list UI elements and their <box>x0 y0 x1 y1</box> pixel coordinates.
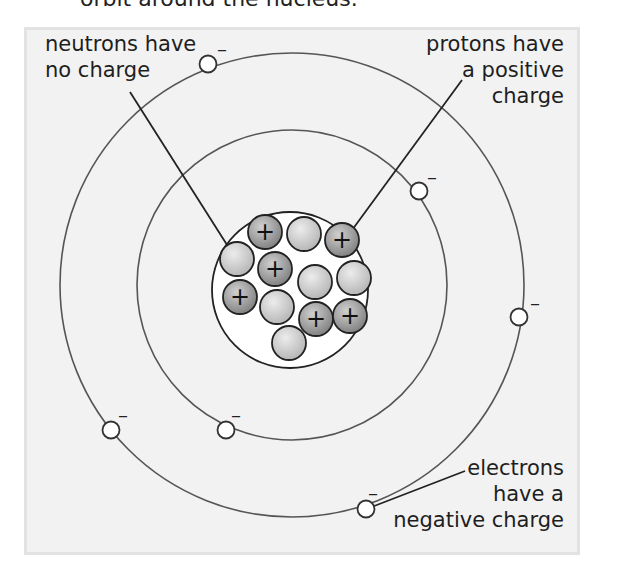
svg-text:+: + <box>230 283 250 311</box>
electrons-label: electrons have a negative charge <box>393 455 564 533</box>
svg-text:+: + <box>265 255 285 283</box>
svg-text:–: – <box>217 37 227 61</box>
protons-label: protons have a positive charge <box>426 31 564 109</box>
svg-text:+: + <box>340 302 360 330</box>
neutron <box>220 242 254 276</box>
svg-text:–: – <box>118 403 128 427</box>
proton: + <box>325 223 359 257</box>
proton: + <box>248 215 282 249</box>
svg-text:–: – <box>231 403 241 427</box>
electron: – <box>218 403 242 439</box>
electrons-label-line: negative charge <box>393 507 564 533</box>
electron: – <box>200 37 228 73</box>
neutron <box>287 217 321 251</box>
neutrons-label-line: no charge <box>45 57 196 83</box>
electron: – <box>103 403 129 439</box>
nucleus: + + + + + + <box>212 212 371 368</box>
proton: + <box>223 280 257 314</box>
neutrons-label: neutrons have no charge <box>45 31 196 83</box>
electron: – <box>411 165 438 200</box>
svg-text:–: – <box>530 291 540 315</box>
electrons-label-line: have a <box>393 481 564 507</box>
electrons-label-line: electrons <box>393 455 564 481</box>
neutrons-label-line: neutrons have <box>45 31 196 57</box>
proton: + <box>333 299 367 333</box>
protons-label-line: charge <box>426 83 564 109</box>
neutron <box>260 290 294 324</box>
svg-text:–: – <box>368 481 378 505</box>
neutron <box>298 265 332 299</box>
proton: + <box>258 252 292 286</box>
svg-text:+: + <box>255 218 275 246</box>
electron: – <box>358 481 379 518</box>
neutron <box>337 261 371 295</box>
svg-text:+: + <box>306 305 326 333</box>
proton: + <box>299 302 333 336</box>
neutron <box>272 326 306 360</box>
protons-label-line: a positive <box>426 57 564 83</box>
electron: – <box>511 291 541 326</box>
svg-text:+: + <box>332 226 352 254</box>
protons-label-line: protons have <box>426 31 564 57</box>
svg-text:–: – <box>427 165 437 189</box>
